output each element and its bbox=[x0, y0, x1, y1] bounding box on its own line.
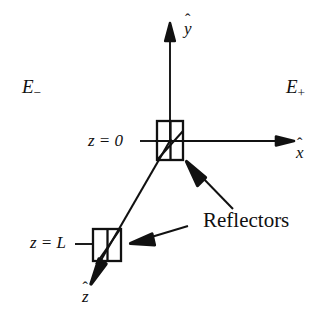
reflector-arrow-lower bbox=[131, 226, 189, 245]
reflector-coordinate-diagram: z = 0 z = L E− E+ ˆy ˆx ˆz Reflectors bbox=[0, 0, 332, 311]
label-e-plus-subscript: + bbox=[298, 85, 306, 100]
reflector-arrow-upper bbox=[187, 162, 234, 210]
z-axis-arrowhead bbox=[91, 259, 106, 284]
label-e-minus-subscript: − bbox=[34, 85, 42, 100]
label-z-equals-L: z = L bbox=[30, 234, 66, 251]
reflector-arrow-upper-head bbox=[187, 162, 206, 186]
label-e-plus: E+ bbox=[286, 77, 305, 99]
y-axis-arrowhead bbox=[165, 23, 175, 41]
label-e-minus-base: E bbox=[22, 76, 34, 97]
y-hat-accent-icon: ˆ bbox=[185, 12, 190, 28]
label-z-equals-0: z = 0 bbox=[88, 132, 123, 149]
label-z-hat: ˆz bbox=[82, 288, 89, 305]
x-axis-arrowhead bbox=[276, 137, 294, 146]
z-hat-accent-icon: ˆ bbox=[83, 280, 88, 296]
diagram-canvas bbox=[0, 0, 332, 311]
x-hat-accent-icon: ˆ bbox=[297, 136, 302, 152]
label-e-plus-base: E bbox=[286, 76, 298, 97]
reflector-arrow-lower-head bbox=[131, 234, 155, 245]
label-z0-text: z = 0 bbox=[88, 131, 123, 150]
label-y-hat: ˆy bbox=[184, 20, 192, 37]
label-x-hat: ˆx bbox=[296, 144, 304, 161]
label-reflectors: Reflectors bbox=[203, 210, 289, 231]
label-e-minus: E− bbox=[22, 77, 41, 99]
reflector-bottom-shape bbox=[93, 228, 121, 264]
label-zl-text: z = L bbox=[30, 233, 66, 252]
